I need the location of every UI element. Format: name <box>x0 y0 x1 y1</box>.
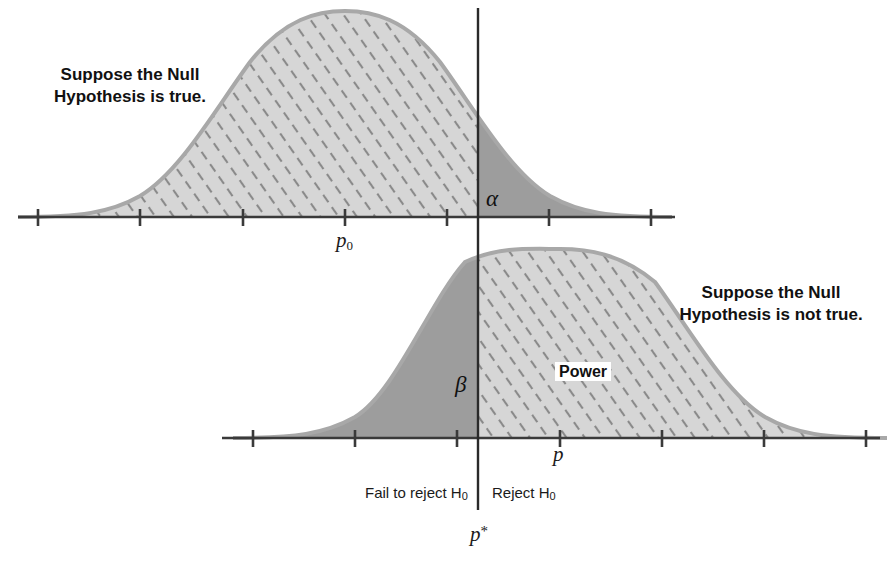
null-true-line-2: Hypothesis is true. <box>20 86 240 108</box>
beta-label: β <box>455 372 466 398</box>
reject-subscript: 0 <box>550 490 556 502</box>
p-null-subscript: 0 <box>347 238 354 253</box>
p-critical-label: p* <box>470 522 488 547</box>
null-true-line-1: Suppose the Null <box>20 64 240 86</box>
alpha-label: α <box>486 186 498 212</box>
p-null-symbol: p <box>336 228 347 252</box>
fail-to-reject-label: Fail to reject H0 <box>365 484 468 502</box>
fail-to-reject-subscript: 0 <box>462 490 468 502</box>
alternative-distribution-curve <box>233 249 887 438</box>
null-curve-hatched-region <box>18 11 672 217</box>
reject-text: Reject H <box>492 484 550 501</box>
power-label-wrap: Power <box>555 363 611 381</box>
fail-to-reject-text: Fail to reject H <box>365 484 462 501</box>
null-false-annotation: Suppose the Null Hypothesis is not true. <box>655 282 887 326</box>
null-false-line-2: Hypothesis is not true. <box>655 304 887 326</box>
p-critical-symbol: p <box>470 522 481 546</box>
null-distribution-curve <box>18 11 672 217</box>
null-true-annotation: Suppose the Null Hypothesis is true. <box>20 64 240 108</box>
p-critical-superscript: * <box>481 523 489 539</box>
power-region-fill <box>233 249 887 438</box>
null-false-line-1: Suppose the Null <box>655 282 887 304</box>
reject-label: Reject H0 <box>492 484 556 502</box>
p-null-label: p0 <box>336 228 353 254</box>
power-label: Power <box>555 362 611 381</box>
p-alt-label: p <box>553 442 564 467</box>
